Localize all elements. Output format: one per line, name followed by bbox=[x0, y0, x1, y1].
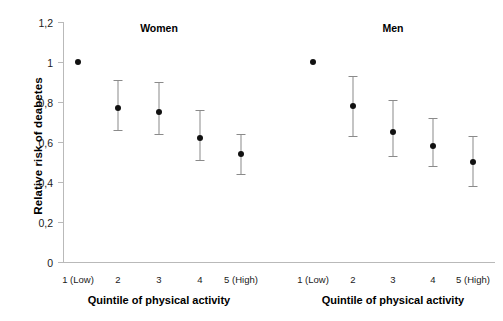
data-point bbox=[75, 59, 81, 65]
y-axis-line bbox=[63, 22, 64, 262]
y-axis-tick-label: 0,2 bbox=[38, 217, 53, 229]
error-bar-cap bbox=[237, 134, 246, 135]
relative-risk-chart: Relative risk of deabetes 00,20,40,60,81… bbox=[0, 0, 503, 321]
y-axis-tick-label: 1 bbox=[47, 57, 53, 69]
x-axis-tick-label: 5 (High) bbox=[224, 274, 258, 285]
data-point bbox=[156, 109, 162, 115]
error-bar bbox=[159, 82, 160, 134]
error-bar-cap bbox=[349, 136, 358, 137]
y-axis-tick: 0,2 bbox=[58, 222, 63, 223]
panel-title-men: Men bbox=[383, 22, 404, 34]
error-bar bbox=[433, 118, 434, 166]
plot-area: 00,20,40,60,811,2 bbox=[63, 22, 495, 262]
error-bar-cap bbox=[114, 130, 123, 131]
y-axis-tick-label: 0,4 bbox=[38, 177, 53, 189]
x-axis-tick-label: 2 bbox=[115, 274, 120, 285]
error-bar-cap bbox=[155, 134, 164, 135]
x-axis-tick-label: 4 bbox=[430, 274, 435, 285]
error-bar-cap bbox=[469, 136, 478, 137]
x-axis-tick-label: 4 bbox=[197, 274, 202, 285]
error-bar-cap bbox=[429, 166, 438, 167]
y-axis-tick-label: 0,6 bbox=[38, 137, 53, 149]
y-axis-tick: 0,6 bbox=[58, 142, 63, 143]
x-axis-title: Quintile of physical activity bbox=[88, 294, 230, 306]
error-bar-cap bbox=[196, 110, 205, 111]
x-axis-tick-label: 2 bbox=[350, 274, 355, 285]
x-axis-tick-label: 5 (High) bbox=[456, 274, 490, 285]
y-axis-tick: 0,4 bbox=[58, 182, 63, 183]
error-bar-cap bbox=[469, 186, 478, 187]
error-bar-cap bbox=[429, 118, 438, 119]
y-axis-tick-label: 0 bbox=[47, 257, 53, 269]
error-bar-cap bbox=[349, 76, 358, 77]
y-axis-tick: 0 bbox=[58, 262, 63, 263]
data-point bbox=[350, 103, 356, 109]
data-point bbox=[390, 129, 396, 135]
data-point bbox=[310, 59, 316, 65]
x-axis-tick-label: 1 (Low) bbox=[62, 274, 94, 285]
x-axis-title: Quintile of physical activity bbox=[322, 294, 464, 306]
y-axis-tick-label: 0,8 bbox=[38, 97, 53, 109]
data-point bbox=[430, 143, 436, 149]
error-bar-cap bbox=[114, 80, 123, 81]
x-axis-tick-label: 3 bbox=[156, 274, 161, 285]
error-bar-cap bbox=[196, 160, 205, 161]
error-bar-cap bbox=[155, 82, 164, 83]
y-axis-tick: 0,8 bbox=[58, 102, 63, 103]
y-axis-tick: 1,2 bbox=[58, 22, 63, 23]
x-axis-tick-label: 3 bbox=[390, 274, 395, 285]
panel-title-women: Women bbox=[140, 22, 178, 34]
data-point bbox=[197, 135, 203, 141]
y-axis-tick: 1 bbox=[58, 62, 63, 63]
x-axis-tick-label: 1 (Low) bbox=[297, 274, 329, 285]
error-bar bbox=[393, 100, 394, 156]
x-axis-line bbox=[63, 262, 495, 263]
data-point bbox=[238, 151, 244, 157]
data-point bbox=[115, 105, 121, 111]
data-point bbox=[470, 159, 476, 165]
y-axis-tick-label: 1,2 bbox=[38, 17, 53, 29]
error-bar-cap bbox=[389, 100, 398, 101]
error-bar-cap bbox=[389, 156, 398, 157]
error-bar-cap bbox=[237, 174, 246, 175]
